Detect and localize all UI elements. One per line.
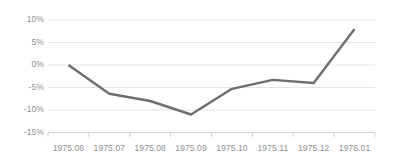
x-tick-category-2: 1975.08 [130, 143, 171, 154]
x-tick-label: 1975.06 [48, 143, 89, 154]
x-tick-label: 1976.01 [334, 143, 375, 154]
y-tick-minus15: -15% [10, 128, 44, 138]
x-tick-category-3: 1975.09 [171, 143, 212, 154]
x-tick-label: 1975.11 [252, 143, 293, 154]
x-tick-label: 1975.07 [89, 143, 130, 154]
x-tick-category-5: 1975.11 [252, 143, 293, 154]
x-tick-label: 1975.08 [130, 143, 171, 154]
x-tick-label: 1975.12 [293, 143, 334, 154]
line-chart: 10% 5% 0% -5% -10% -15% 1975.06 1975.07 … [0, 0, 399, 167]
y-tick-label: 5% [10, 38, 44, 47]
y-tick-label: -10% [10, 105, 44, 114]
data-series-line [68, 29, 354, 115]
y-tick-5: 5% [10, 38, 44, 48]
x-axis [48, 133, 375, 138]
y-tick-10: 10% [10, 15, 44, 25]
x-tick-category-6: 1975.12 [293, 143, 334, 154]
y-tick-label: -5% [10, 83, 44, 92]
x-tick-category-4: 1975.10 [212, 143, 253, 154]
y-tick-label: 0% [10, 60, 44, 69]
x-tick-label: 1975.09 [171, 143, 212, 154]
y-tick-label: -15% [10, 128, 44, 137]
x-tick-category-1: 1975.07 [89, 143, 130, 154]
y-tick-0: 0% [10, 60, 44, 70]
chart-plot-area [0, 0, 399, 167]
y-tick-minus10: -10% [10, 105, 44, 115]
y-tick-label: 10% [10, 15, 44, 24]
x-tick-category-0: 1975.06 [48, 143, 89, 154]
x-tick-label: 1975.10 [212, 143, 253, 154]
x-tick-category-7: 1976.01 [334, 143, 375, 154]
y-tick-minus5: -5% [10, 83, 44, 93]
